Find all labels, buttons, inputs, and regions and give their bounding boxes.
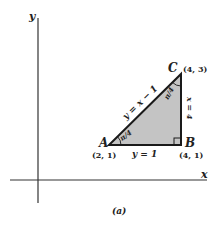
vertex-coord-a: (2, 1) xyxy=(92,150,116,160)
x-axis-label: x xyxy=(200,168,208,181)
vertex-label-a: A xyxy=(98,136,108,150)
vertex-coord-b: (4, 1) xyxy=(179,150,203,160)
edge-label-ab: y = 1 xyxy=(131,149,157,159)
figure-caption: (a) xyxy=(112,206,126,216)
vertex-coord-c: (4, 3) xyxy=(183,64,207,74)
y-axis-label: y xyxy=(28,10,37,23)
triangle-diagram: y x π/4 π/4 y = x − 1 y = 1 x = 4 A (2, … xyxy=(0,0,218,226)
edge-label-bc: x = 4 xyxy=(185,96,195,120)
vertex-label-b: B xyxy=(184,136,195,150)
vertex-label-c: C xyxy=(168,61,178,75)
